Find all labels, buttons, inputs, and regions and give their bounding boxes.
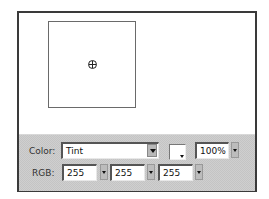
blue-value: 255: [163, 168, 180, 178]
registration-point-icon: [88, 60, 97, 69]
green-value: 255: [115, 168, 132, 178]
chevron-down-icon[interactable]: [147, 144, 157, 157]
red-stepper[interactable]: [100, 164, 108, 180]
preview-symbol-square[interactable]: [48, 21, 136, 108]
rgb-label: RGB:: [32, 168, 54, 178]
color-mode-value: Tint: [66, 146, 83, 156]
color-label: Color:: [29, 146, 55, 156]
tint-percent-input[interactable]: 100%: [195, 142, 229, 159]
tint-color-swatch[interactable]: [169, 144, 186, 160]
tint-percent-value: 100%: [200, 146, 226, 156]
color-mode-dropdown[interactable]: Tint: [61, 142, 159, 159]
green-input[interactable]: 255: [110, 164, 145, 181]
blue-input[interactable]: 255: [158, 164, 193, 181]
red-input[interactable]: 255: [62, 164, 97, 181]
color-effect-panel: Color: Tint 100% RGB: 255 255 255: [17, 11, 257, 192]
tint-percent-stepper[interactable]: [231, 142, 239, 158]
preview-canvas: [19, 13, 255, 134]
blue-stepper[interactable]: [195, 164, 203, 180]
color-properties-bar: Color: Tint 100% RGB: 255 255 255: [19, 134, 255, 191]
green-stepper[interactable]: [147, 164, 155, 180]
red-value: 255: [67, 168, 84, 178]
swatch-dropdown-icon: [180, 155, 184, 158]
